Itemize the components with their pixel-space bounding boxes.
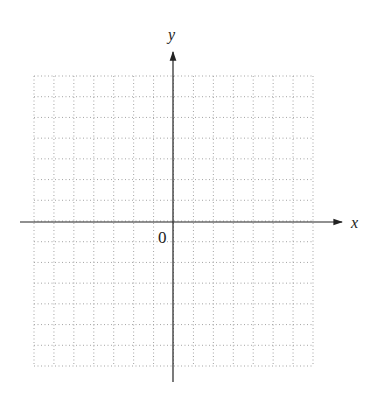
coordinate-plane: x y 0 [0, 0, 369, 397]
x-axis-label: x [350, 214, 358, 231]
origin-label: 0 [158, 228, 167, 247]
y-axis-label: y [166, 26, 176, 44]
